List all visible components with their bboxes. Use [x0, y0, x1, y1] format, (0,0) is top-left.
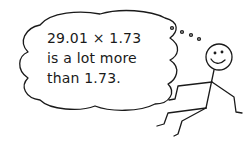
head [206, 44, 232, 70]
left-arm [169, 82, 212, 100]
smile [211, 59, 225, 63]
body [206, 70, 214, 108]
stick-figure [157, 44, 242, 136]
thought-line-2: is a lot more [47, 48, 167, 68]
thought-line-1: 29.01 × 1.73 [47, 28, 167, 48]
illustration: 29.01 × 1.73 is a lot more than 1.73. [0, 0, 252, 143]
thought-line-3: than 1.73. [47, 68, 167, 88]
right-arm [212, 82, 242, 113]
thought-text: 29.01 × 1.73 is a lot more than 1.73. [47, 28, 167, 88]
